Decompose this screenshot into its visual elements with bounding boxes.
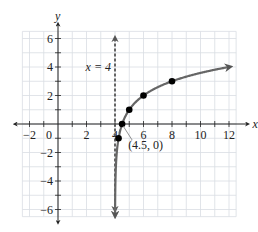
x-tick-label: 8 [169,128,175,142]
data-point [119,121,126,128]
y-axis-label: y [54,9,61,23]
x-tick-label: 2 [84,128,90,142]
asymptote-label: x = 4 [85,60,111,74]
y-tick-label: 2 [47,89,53,103]
data-point [126,106,133,113]
annotation-label: (4.5, 0) [128,138,163,152]
y-tick-label: 6 [47,32,53,46]
data-point [140,92,147,99]
data-point [169,78,176,85]
y-tick-label: −2 [40,146,53,160]
data-point [115,135,122,142]
x-axis-label: x [251,117,258,131]
x-tick-label: 10 [195,128,207,142]
y-tick-label: 4 [47,60,53,74]
x-tick-label: 12 [223,128,235,142]
x-tick-label: −2 [23,128,36,142]
chart: xy −2024681012−6−4−2246 x = 4 (4.5, 0) [0,0,258,232]
x-tick-label: 0 [46,128,52,142]
y-tick-label: −4 [40,174,53,188]
y-tick-label: −6 [40,203,53,217]
